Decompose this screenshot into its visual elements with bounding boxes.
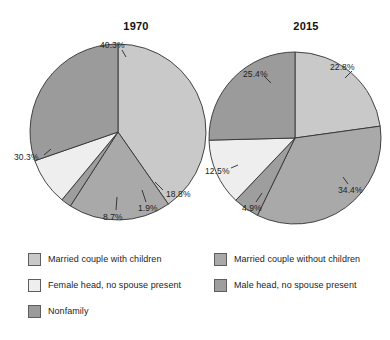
- legend-label-male-head: Male head, no spouse present: [234, 280, 356, 290]
- legend-column-left: Married couple with children Female head…: [28, 246, 181, 324]
- pie-2015-label-married-with-children: 22.8%: [330, 62, 355, 72]
- legend-label-married-without-children: Married couple without children: [234, 254, 360, 264]
- legend-label-nonfamily: Nonfamily: [48, 306, 88, 316]
- chart-legend: Married couple with children Female head…: [0, 246, 390, 330]
- pie-1970-label-male-head: 1.9%: [138, 203, 158, 213]
- legend-item-nonfamily: Nonfamily: [28, 298, 181, 324]
- legend-item-male-head: Male head, no spouse present: [214, 272, 360, 298]
- pie-2015-label-female-head: 12.5%: [205, 166, 230, 176]
- pie-1970-label-married-without-children: 18.8%: [166, 189, 191, 199]
- pie-2015-label-married-without-children: 34.4%: [338, 185, 363, 195]
- legend-label-married-with-children: Married couple with children: [48, 254, 161, 264]
- pie-2015-svg: [205, 48, 385, 228]
- pie-chart-figure: 1970 2015 40.3% 18.8% 1.9% 8.7% 30.3% 22…: [0, 0, 390, 340]
- pie-2015-label-male-head: 4.9%: [242, 203, 262, 213]
- pie-1970-label-female-head: 8.7%: [103, 212, 123, 222]
- legend-label-female-head: Female head, no spouse present: [48, 280, 181, 290]
- legend-column-right: Married couple without children Male hea…: [214, 246, 360, 298]
- pie-2015-slices: [209, 52, 381, 224]
- legend-swatch-female-head: [28, 279, 41, 292]
- chart-title-1970: 1970: [86, 20, 186, 32]
- legend-swatch-male-head: [214, 279, 227, 292]
- pie-1970-label-nonfamily: 30.3%: [14, 152, 39, 162]
- pie-chart-2015: [205, 48, 385, 228]
- pie-2015-label-nonfamily: 25.4%: [243, 69, 268, 79]
- legend-swatch-married-without-children: [214, 253, 227, 266]
- chart-title-2015: 2015: [256, 20, 356, 32]
- legend-swatch-nonfamily: [28, 305, 41, 318]
- legend-swatch-married-with-children: [28, 253, 41, 266]
- legend-item-married-with-children: Married couple with children: [28, 246, 181, 272]
- pie-1970-label-married-with-children: 40.3%: [100, 40, 125, 50]
- legend-item-female-head: Female head, no spouse present: [28, 272, 181, 298]
- legend-item-married-without-children: Married couple without children: [214, 246, 360, 272]
- pie-slice: [209, 52, 295, 140]
